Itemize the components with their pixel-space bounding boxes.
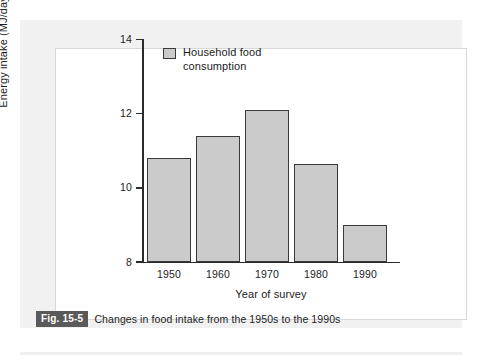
figure-number-badge: Fig. 15-5 <box>36 311 88 327</box>
figure-panel <box>20 20 462 328</box>
figure-caption: Fig. 15-5 Changes in food intake from th… <box>36 311 340 327</box>
page-bottom-rule <box>20 352 462 355</box>
figure-caption-text: Changes in food intake from the 1950s to… <box>94 313 340 325</box>
chart-plot-card <box>55 48 467 320</box>
y-axis-title: Energy intake (MJ/day) <box>0 0 9 150</box>
